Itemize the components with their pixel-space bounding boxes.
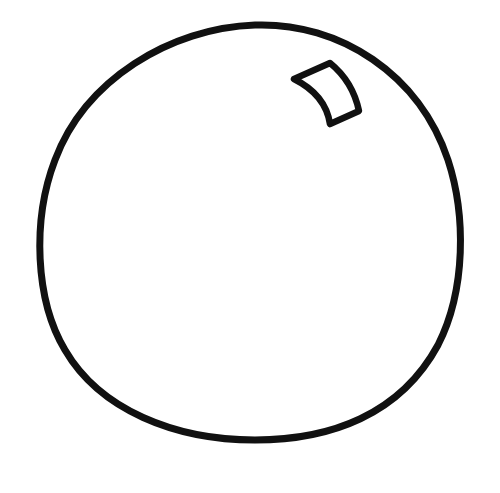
- drawing-canvas: [0, 0, 500, 493]
- ball-drawing: [0, 0, 500, 493]
- highlight-shape: [294, 63, 359, 124]
- ball-outline: [40, 25, 461, 440]
